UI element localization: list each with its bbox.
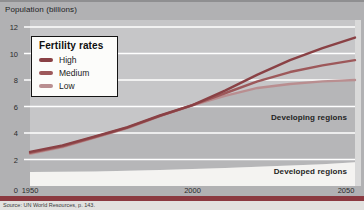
x-tick-2050: 2050: [338, 186, 355, 195]
legend-item-low: Low: [39, 79, 111, 92]
plot-right-margin: [355, 20, 361, 186]
population-line-chart: 024681012195020002050: [0, 0, 364, 210]
developed-regions-label: Developed regions: [274, 167, 347, 176]
fertility-rates-legend: Fertility rates High Medium Low: [31, 36, 118, 97]
high-swatch-icon: [39, 58, 53, 62]
x-tick-1950: 1950: [22, 186, 39, 195]
y-tick-6: 6: [14, 103, 18, 112]
source-note: Source: UN World Resources, p. 143.: [3, 202, 95, 208]
legend-title: Fertility rates: [39, 40, 111, 51]
y-tick-10: 10: [10, 50, 18, 59]
legend-item-medium: Medium: [39, 66, 111, 79]
legend-item-high: High: [39, 53, 111, 66]
y-tick-4: 4: [14, 129, 18, 138]
legend-label-medium: Medium: [59, 68, 89, 78]
y-tick-12: 12: [10, 23, 18, 32]
legend-label-high: High: [59, 55, 76, 65]
y-tick-8: 8: [14, 76, 18, 85]
population-projection-figure: Population (billions) 024681012195020002…: [0, 0, 364, 210]
y-tick-2: 2: [14, 156, 18, 165]
legend-label-low: Low: [59, 81, 75, 91]
x-tick-2000: 2000: [184, 186, 201, 195]
y-tick-0: 0: [14, 186, 18, 195]
low-swatch-icon: [39, 84, 53, 88]
developing-regions-label: Developing regions: [271, 113, 347, 122]
medium-swatch-icon: [39, 71, 53, 75]
